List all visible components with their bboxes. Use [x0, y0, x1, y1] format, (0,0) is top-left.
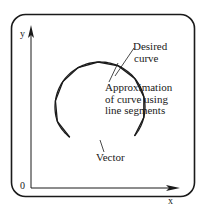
approximation-leader-line [109, 63, 118, 82]
desired-curve-leader-line [115, 48, 134, 76]
approximation-label-line-3: line segments [105, 105, 172, 117]
diagram-canvas [0, 0, 207, 212]
curve-approximation-diagram: y 0 x Desired curve Approximation of cur… [0, 0, 207, 212]
y-axis-label: y [20, 28, 25, 39]
approximation-label: Approximation of curve using line segmen… [105, 82, 172, 117]
desired-curve-label-line-2: curve [133, 52, 167, 64]
desired-curve-label: Desired curve [133, 40, 167, 64]
origin-label: 0 [20, 180, 25, 191]
vector-label: Vector [96, 152, 125, 163]
x-axis-label: x [168, 195, 173, 206]
approximation-label-line-1: Approximation [105, 82, 172, 94]
desired-curve-label-line-1: Desired [133, 40, 167, 52]
